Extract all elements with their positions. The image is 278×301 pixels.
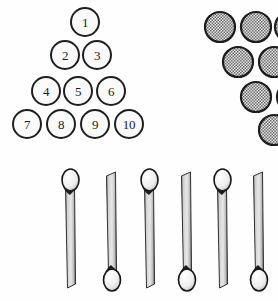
figure-root: 1 2 3 4 5 — [0, 0, 278, 301]
matchstick-head — [179, 269, 196, 291]
circle-label: 6 — [108, 84, 115, 99]
matchstick-shaft — [218, 184, 228, 288]
numbered-circle-row-3: 4 5 6 — [32, 77, 125, 105]
numbered-circle-8: 8 — [47, 110, 75, 138]
matchstick-head — [62, 169, 79, 191]
matchstick-shaft — [182, 172, 192, 274]
circle-label: 3 — [94, 48, 100, 63]
numbered-circle-7: 7 — [13, 110, 41, 138]
circle-label: 8 — [58, 117, 64, 132]
numbered-circle-row-1: 1 — [71, 8, 99, 36]
numbered-circle-6: 6 — [97, 77, 125, 105]
circle-label: 1 — [82, 15, 88, 30]
matchstick-head — [104, 269, 121, 291]
shaded-circle — [241, 82, 271, 112]
numbered-circle-9: 9 — [81, 110, 109, 138]
matchstick-head — [214, 169, 231, 191]
figure-canvas: 1 2 3 4 5 — [0, 0, 278, 301]
circle-label: 5 — [75, 84, 81, 99]
circle-label: 10 — [123, 117, 135, 132]
numbered-circle-5: 5 — [64, 77, 92, 105]
shaded-circle — [259, 115, 278, 145]
numbered-circle-3: 3 — [83, 41, 111, 69]
matchstick-shaft — [145, 184, 155, 288]
circle-label: 7 — [24, 117, 31, 132]
figure-background — [0, 0, 278, 301]
circle-label: 2 — [62, 48, 68, 63]
matchstick-shaft — [254, 172, 264, 274]
circle-label: 9 — [92, 117, 98, 132]
shaded-circle — [241, 12, 271, 42]
shaded-circle — [259, 47, 278, 77]
numbered-circle-4: 4 — [32, 77, 60, 105]
matchstick-head — [251, 269, 268, 291]
circle-label: 4 — [43, 84, 50, 99]
shaded-circle — [223, 47, 253, 77]
numbered-circle-2: 2 — [51, 41, 79, 69]
shaded-circle — [205, 12, 235, 42]
matchstick-head — [141, 169, 158, 191]
matchstick-shaft — [107, 172, 117, 274]
matchstick-shaft — [66, 184, 76, 288]
numbered-circle-1: 1 — [71, 8, 99, 36]
numbered-circle-10: 10 — [115, 110, 143, 138]
